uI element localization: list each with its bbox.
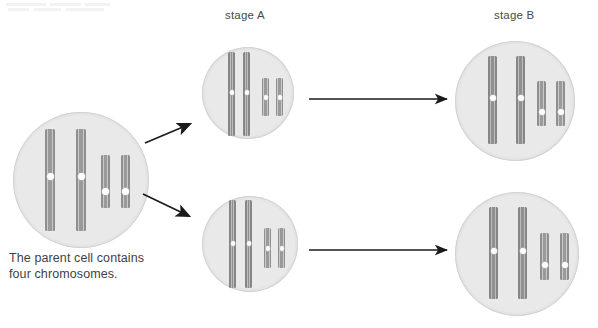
arrow-parent-to-stage-a-top bbox=[145, 124, 190, 143]
cell-division-diagram: stage A stage B The parent cell contains… bbox=[0, 0, 598, 328]
arrow-parent-to-stage-a-bottom bbox=[143, 194, 189, 216]
arrow-layer bbox=[0, 0, 598, 328]
